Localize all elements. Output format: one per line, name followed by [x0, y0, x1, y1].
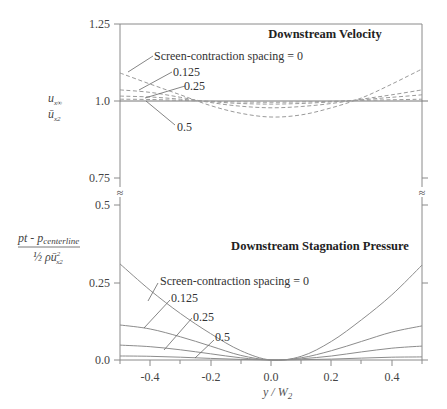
break-mark-left: ≈: [117, 186, 124, 200]
upper-label-spacing-025: 0.25: [184, 79, 205, 93]
xtick--0.4: -0.4: [141, 370, 160, 384]
ytick-1.25: 1.25: [89, 17, 110, 31]
lower-label-spacing-05: 0.5: [215, 330, 230, 344]
upper-panel-title: Downstream Velocity: [268, 27, 382, 41]
leader-lower-025: [164, 318, 192, 350]
xtick-0.0: 0.0: [264, 370, 279, 384]
leader-upper-0125: [139, 72, 172, 90]
leader-upper-025: [145, 86, 185, 98]
lower-curve-series-3: [120, 356, 422, 360]
ytick-0.5: 0.5: [95, 198, 110, 212]
lower-curve-series-1: [120, 325, 422, 360]
upper-label-spacing-05: 0.5: [177, 120, 192, 134]
ytick-1.0: 1.0: [95, 94, 110, 108]
leader-lower-05: [195, 340, 214, 358]
lower-label-spacing-0125: 0.125: [171, 291, 198, 305]
leader-lower-0125: [144, 300, 170, 328]
leader-upper-0: [128, 56, 153, 72]
lower-panel-title: Downstream Stagnation Pressure: [231, 239, 409, 253]
ytick-0.0: 0.0: [95, 353, 110, 367]
x-tick-labels: -0.4 -0.2 0.0 0.2 0.4: [141, 370, 400, 384]
lower-label-spacing-0: Screen-contraction spacing = 0: [160, 274, 309, 288]
x-axis-label: y / W2: [262, 385, 293, 401]
ytick-0.25: 0.25: [89, 276, 110, 290]
axis-break-right: ≈: [416, 186, 428, 200]
leader-upper-05: [146, 101, 175, 125]
upper-label-spacing-0: Screen-contraction spacing = 0: [154, 49, 303, 63]
chart: ≈ ≈ 1.25 1.0 0.75 0.5 0.25 0.0 -0.4 -0.2…: [0, 0, 447, 409]
axes-frame: [114, 24, 428, 366]
y-tick-labels: 1.25 1.0 0.75 0.5 0.25 0.0: [89, 17, 110, 367]
upper-curve-series-2: [120, 95, 422, 104]
ytick-0.75: 0.75: [89, 171, 110, 185]
xtick--0.2: -0.2: [202, 370, 221, 384]
xtick-0.4: 0.4: [385, 370, 400, 384]
break-mark-right: ≈: [419, 186, 426, 200]
lower-y-axis-label: pt - pcenterline ½ ρū2x2: [17, 231, 80, 266]
lower-ylabel-denominator: ½ ρū2x2: [33, 250, 63, 266]
xtick-0.2: 0.2: [324, 370, 339, 384]
upper-ylabel-denominator: ūx2: [48, 107, 61, 123]
leader-lower-0: [148, 283, 158, 301]
upper-ylabel-numerator: ux∞: [48, 91, 62, 107]
velocity-curves: [120, 69, 422, 117]
lower-label-spacing-025: 0.25: [193, 310, 214, 324]
upper-y-axis-label: ux∞ ūx2: [48, 91, 62, 123]
upper-curve-series-0: [120, 69, 422, 117]
upper-label-spacing-0125: 0.125: [173, 65, 200, 79]
lower-ylabel-numerator: pt - pcenterline: [17, 231, 79, 246]
axis-break-left: ≈: [114, 186, 126, 200]
